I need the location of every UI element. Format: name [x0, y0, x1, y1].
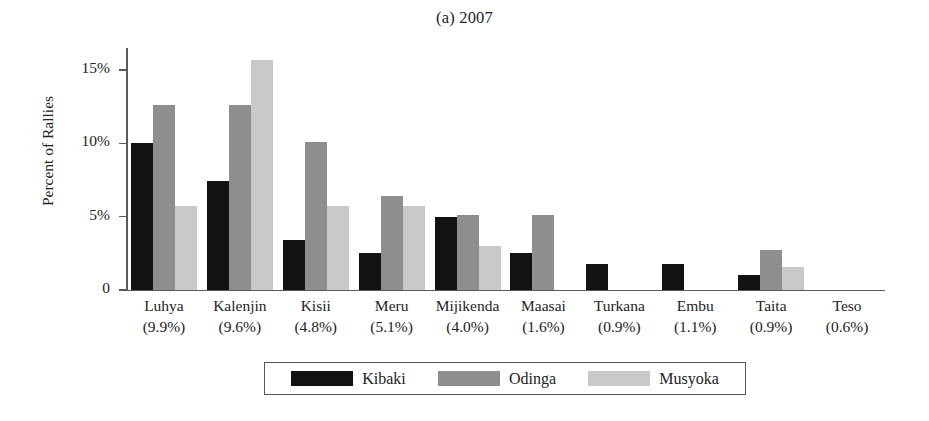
category-name: Taita	[756, 297, 787, 314]
category-name: Turkana	[594, 297, 645, 314]
bar-kibaki-meru	[359, 253, 381, 290]
bar-musyoka-luhya	[175, 206, 197, 290]
bars-layer	[126, 48, 885, 290]
bar-kibaki-embu	[662, 264, 684, 290]
category-name: Mijikenda	[436, 297, 500, 314]
bar-musyoka-mijikenda	[479, 246, 501, 290]
category-name: Teso	[833, 297, 862, 314]
figure-2007: (a) 2007 Percent of Rallies 05%10%15% Lu…	[0, 0, 929, 421]
x-axis-label-teso: Teso(0.6%)	[799, 296, 895, 337]
legend-label: Musyoka	[659, 370, 719, 388]
y-tick-mark	[119, 289, 126, 291]
bar-kibaki-luhya	[131, 143, 153, 290]
bar-odinga-taita	[760, 250, 782, 290]
bar-odinga-kisii	[305, 142, 327, 290]
category-name: Kisii	[301, 297, 331, 314]
y-tick-label: 10%	[46, 132, 110, 150]
category-name: Embu	[677, 297, 714, 314]
y-tick-label: 15%	[46, 59, 110, 77]
legend-swatch-kibaki	[291, 371, 353, 386]
bar-odinga-maasai	[532, 215, 554, 290]
bar-odinga-meru	[381, 196, 403, 290]
chart-title: (a) 2007	[0, 8, 929, 28]
bar-odinga-kalenjin	[229, 105, 251, 290]
bar-kibaki-maasai	[510, 253, 532, 290]
legend-label: Kibaki	[362, 370, 406, 388]
y-tick-mark	[119, 216, 126, 218]
legend-item-musyoka[interactable]: Musyoka	[588, 370, 719, 388]
legend-label: Odinga	[509, 370, 556, 388]
bar-kibaki-kalenjin	[207, 181, 229, 290]
legend-swatch-musyoka	[588, 371, 650, 386]
bar-musyoka-meru	[403, 206, 425, 290]
y-tick-mark	[119, 143, 126, 145]
y-tick-mark	[119, 69, 126, 71]
y-tick-label: 5%	[46, 206, 110, 224]
category-name: Kalenjin	[213, 297, 266, 314]
category-share: (0.6%)	[799, 317, 895, 338]
category-name: Maasai	[521, 297, 566, 314]
bar-kibaki-turkana	[586, 264, 608, 290]
legend-item-odinga[interactable]: Odinga	[438, 370, 556, 388]
legend-item-kibaki[interactable]: Kibaki	[291, 370, 406, 388]
bar-odinga-luhya	[153, 105, 175, 290]
bar-kibaki-taita	[738, 275, 760, 290]
legend: KibakiOdingaMusyoka	[264, 362, 746, 395]
category-name: Meru	[375, 297, 409, 314]
bar-musyoka-kisii	[327, 206, 349, 290]
category-name: Luhya	[144, 297, 184, 314]
bar-musyoka-taita	[782, 267, 804, 290]
bar-kibaki-kisii	[283, 240, 305, 290]
bar-musyoka-kalenjin	[251, 60, 273, 290]
legend-swatch-odinga	[438, 371, 500, 386]
bar-odinga-mijikenda	[457, 215, 479, 290]
bar-kibaki-mijikenda	[435, 217, 457, 290]
y-tick-label: 0	[46, 279, 110, 297]
